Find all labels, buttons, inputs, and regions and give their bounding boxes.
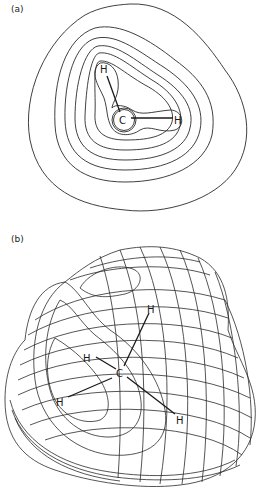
surface-contour-rings — [34, 267, 166, 455]
atom-h-top: H — [100, 64, 108, 75]
atom-h-top-right: H — [147, 304, 155, 315]
wireframe-surface-panel-b: C H H H H — [0, 240, 260, 494]
atom-c: C — [119, 115, 126, 126]
atom-c-3d: C — [116, 368, 123, 379]
contour-plot-panel-a: H C H — [0, 0, 260, 230]
atom-h-right: H — [174, 115, 182, 126]
atom-h-left: H — [83, 353, 91, 364]
surface-latitude-lines — [18, 257, 252, 455]
contour-lines — [28, 4, 246, 211]
surface-longitude-lines — [100, 247, 251, 484]
atom-h-lower-right: H — [176, 415, 184, 426]
atom-h-lower-left: H — [56, 397, 64, 408]
